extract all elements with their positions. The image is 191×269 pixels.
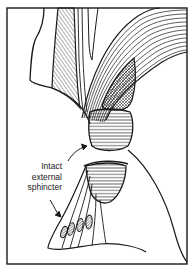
label-line-2: external xyxy=(0,172,62,183)
central-strip-right xyxy=(82,8,87,112)
lower-hatched-sphincter-mass xyxy=(86,163,126,203)
upper-hatched-sphincter-band xyxy=(89,109,133,151)
crosshatched-puborectalis xyxy=(102,58,135,110)
intact-external-sphincter-label: Intact external sphincter xyxy=(0,161,62,193)
central-notch xyxy=(88,8,98,60)
anatomical-diagram xyxy=(0,0,191,269)
left-hatched-muscle xyxy=(52,8,80,108)
arrowhead-icon xyxy=(55,211,61,217)
arrowhead-icon xyxy=(81,144,87,150)
lower-body-outline xyxy=(128,150,187,262)
label-line-3: sphincter xyxy=(0,182,62,193)
arrow-to-sphincter-fibres xyxy=(50,200,61,217)
arrow-to-upper-sphincter-band xyxy=(68,144,87,161)
label-line-1: Intact xyxy=(0,161,62,172)
